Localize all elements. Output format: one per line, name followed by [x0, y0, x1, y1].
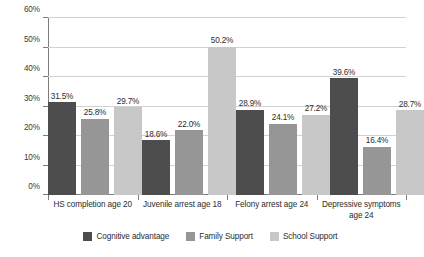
bar-slot: 18.6% — [142, 18, 170, 195]
legend-swatch-icon — [270, 232, 279, 241]
bar-slot: 25.8% — [81, 18, 109, 195]
bar-value-label: 28.9% — [239, 99, 261, 108]
y-axis-tick-label: 30% — [24, 93, 40, 102]
bar-value-label: 31.5% — [51, 92, 73, 101]
bar-slot: 27.2% — [302, 18, 330, 195]
y-axis-tick-label: 10% — [24, 152, 40, 161]
bar-value-label: 50.2% — [211, 36, 233, 45]
bar[interactable]: 27.2% — [302, 115, 330, 195]
bar-slot: 39.6% — [330, 18, 358, 195]
bar-groups: 31.5%25.8%29.7%18.6%22.0%50.2%28.9%24.1%… — [48, 18, 406, 195]
bar[interactable]: 16.4% — [363, 147, 391, 195]
bar-slot: 16.4% — [363, 18, 391, 195]
bar-slot: 22.0% — [175, 18, 203, 195]
y-axis-tick-label: 50% — [24, 34, 40, 43]
bar-value-label: 39.6% — [333, 68, 355, 77]
y-axis-tick-label: 0% — [28, 182, 40, 191]
bar-group: 39.6%16.4%28.7% — [330, 18, 424, 195]
legend-item[interactable]: School Support — [270, 232, 338, 241]
x-axis-labels: HS completion age 20Juvenile arrest age … — [48, 200, 406, 221]
x-axis-category-label: HS completion age 20 — [48, 200, 138, 221]
bar[interactable]: 39.6% — [330, 78, 358, 195]
x-axis-category-label: Felony arrest age 24 — [227, 200, 317, 221]
legend-label: Cognitive advantage — [96, 232, 169, 241]
bar[interactable]: 28.9% — [236, 110, 264, 195]
bar[interactable]: 29.7% — [114, 107, 142, 195]
chart-legend: Cognitive advantageFamily SupportSchool … — [0, 232, 421, 241]
bar[interactable]: 22.0% — [175, 130, 203, 195]
bar-value-label: 27.2% — [305, 104, 327, 113]
bar-slot: 31.5% — [48, 18, 76, 195]
bar-value-label: 18.6% — [145, 130, 167, 139]
bar[interactable]: 50.2% — [208, 47, 236, 195]
x-axis-tick — [406, 195, 407, 200]
legend-item[interactable]: Cognitive advantage — [83, 232, 169, 241]
bar-slot: 50.2% — [208, 18, 236, 195]
y-axis-tick-label: 40% — [24, 64, 40, 73]
bar-value-label: 29.7% — [117, 97, 139, 106]
legend-swatch-icon — [83, 232, 92, 241]
legend-label: School Support — [283, 232, 338, 241]
bar[interactable]: 28.7% — [396, 110, 424, 195]
legend-label: Family Support — [199, 232, 253, 241]
y-axis-tick-label: 20% — [24, 123, 40, 132]
bar-group: 28.9%24.1%27.2% — [236, 18, 330, 195]
y-axis-tick-label: 60% — [24, 5, 40, 14]
bar[interactable]: 25.8% — [81, 119, 109, 195]
bar-slot: 24.1% — [269, 18, 297, 195]
x-axis-category-label: Juvenile arrest age 18 — [138, 200, 228, 221]
bar[interactable]: 31.5% — [48, 102, 76, 195]
bar[interactable]: 18.6% — [142, 140, 170, 195]
bar-slot: 29.7% — [114, 18, 142, 195]
legend-item[interactable]: Family Support — [186, 232, 253, 241]
bar-group: 31.5%25.8%29.7% — [48, 18, 142, 195]
legend-swatch-icon — [186, 232, 195, 241]
bar-value-label: 25.8% — [84, 108, 106, 117]
plot-area: 60%50%40%30%20%10%0% 31.5%25.8%29.7%18.6… — [48, 18, 406, 195]
bar-slot: 28.7% — [396, 18, 424, 195]
bar-slot: 28.9% — [236, 18, 264, 195]
bar-value-label: 24.1% — [272, 113, 294, 122]
x-axis-category-label: Depressive symptoms age 24 — [317, 200, 407, 221]
bar-value-label: 16.4% — [366, 136, 388, 145]
bar-value-label: 28.7% — [399, 100, 421, 109]
bar-group: 18.6%22.0%50.2% — [142, 18, 236, 195]
bar-value-label: 22.0% — [178, 120, 200, 129]
bar[interactable]: 24.1% — [269, 124, 297, 195]
